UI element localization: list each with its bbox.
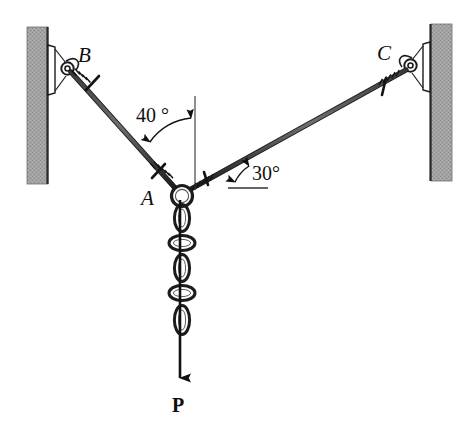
- point-a-label: A: [139, 186, 154, 210]
- chain-link: [169, 235, 195, 250]
- left-wall: [27, 27, 48, 184]
- right-bracket: [400, 42, 430, 92]
- left-bracket: [48, 45, 78, 95]
- cable-ab: [71, 69, 176, 189]
- chain-link: [174, 255, 189, 282]
- figure-canvas: P 40 ° 30° B C A: [0, 0, 461, 444]
- statics-figure: P 40 ° 30° B C A: [0, 0, 461, 444]
- cable-ab-pin-top: [86, 76, 99, 90]
- cable-ac: [191, 70, 406, 189]
- angle-ab-label: 40 °: [136, 104, 169, 126]
- chain-link: [174, 306, 189, 335]
- point-b-label: B: [78, 43, 91, 67]
- point-c-label: C: [377, 41, 392, 65]
- chain-link: [174, 205, 189, 232]
- chain: [169, 205, 195, 335]
- angle-ac-label: 30°: [252, 162, 280, 184]
- load-label: P: [172, 394, 184, 416]
- chain-link: [169, 285, 195, 300]
- right-wall: [431, 24, 453, 181]
